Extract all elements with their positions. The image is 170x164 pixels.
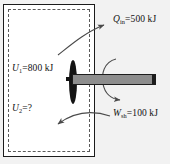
wsh-value: 100 kJ (132, 108, 158, 118)
qin-symbol: Q (113, 14, 120, 24)
shaft-end-cap (152, 74, 156, 85)
thermodynamics-figure: U1=800 kJ U2=? Qin=500 kJ Wsh=100 kJ (0, 0, 170, 164)
label-internal-energy-2: U2=? (12, 104, 32, 114)
wsh-symbol: W (113, 108, 121, 118)
u1-symbol: U (12, 63, 19, 73)
u2-subscript: 2 (19, 107, 22, 114)
heat-input-arrow (58, 25, 104, 55)
u1-value: 800 kJ (28, 63, 54, 73)
label-shaft-work: Wsh=100 kJ (113, 109, 158, 119)
label-internal-energy-1: U1=800 kJ (12, 64, 53, 74)
u2-symbol: U (12, 103, 19, 113)
u2-value: ? (28, 103, 32, 113)
qin-value: 500 kJ (131, 14, 157, 24)
label-heat-input: Qin=500 kJ (113, 15, 156, 25)
qin-subscript: in (120, 18, 125, 25)
shaft-work-arrow (58, 113, 110, 124)
u1-subscript: 1 (19, 67, 22, 74)
horizontal-shaft (72, 74, 156, 85)
wsh-subscript: sh (121, 112, 127, 119)
